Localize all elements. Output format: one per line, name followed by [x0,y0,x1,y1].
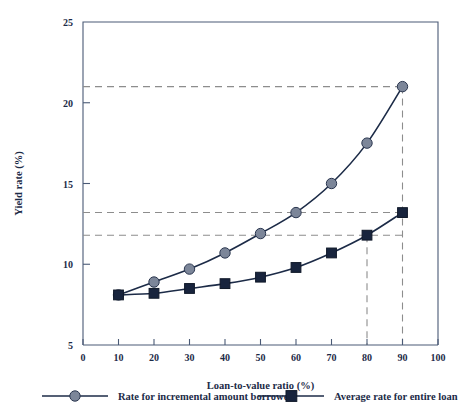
legend-label-average: Average rate for entire loan [334,391,458,402]
data-point-0-80[interactable] [362,138,372,148]
x-tick-label-80: 80 [362,352,372,363]
data-point-0-20[interactable] [149,277,159,287]
data-point-1-60[interactable] [291,263,301,273]
x-tick-label-0: 0 [81,352,86,363]
y-tick-label-15: 15 [63,179,73,190]
data-point-1-30[interactable] [185,284,195,294]
data-point-0-50[interactable] [255,228,265,238]
x-tick-label-10: 10 [114,352,124,363]
data-point-0-90[interactable] [397,81,407,91]
x-tick-label-50: 50 [256,352,266,363]
data-point-1-70[interactable] [327,248,337,258]
series-line-0 [119,87,403,295]
x-tick-label-100: 100 [431,352,446,363]
circle-marker-icon [70,391,80,401]
data-point-0-40[interactable] [220,248,230,258]
plot-frame [83,22,438,345]
data-point-1-40[interactable] [220,279,230,289]
data-point-1-10[interactable] [114,290,124,300]
x-tick-label-90: 90 [398,352,408,363]
data-point-1-90[interactable] [398,208,408,218]
y-tick-label-10: 10 [63,259,73,270]
x-tick-label-70: 70 [327,352,337,363]
y-tick-label-25: 25 [63,17,73,28]
data-point-0-60[interactable] [291,207,301,217]
y-tick-label-5: 5 [68,340,73,351]
data-point-1-20[interactable] [149,288,159,298]
x-tick-label-40: 40 [220,352,230,363]
series-line-1 [119,213,403,295]
chart-container: 0102030405060708090100510152025Loan-to-v… [0,0,463,413]
square-marker-icon [286,391,297,402]
data-point-1-80[interactable] [362,230,372,240]
data-point-0-30[interactable] [184,264,194,274]
y-axis-title: Yield rate (%) [13,151,25,216]
data-point-1-50[interactable] [256,272,266,282]
x-tick-label-20: 20 [149,352,159,363]
yield-rate-line-chart: 0102030405060708090100510152025Loan-to-v… [0,0,463,413]
y-tick-label-20: 20 [63,98,73,109]
x-tick-label-60: 60 [291,352,301,363]
data-point-0-70[interactable] [326,178,336,188]
x-tick-label-30: 30 [185,352,195,363]
